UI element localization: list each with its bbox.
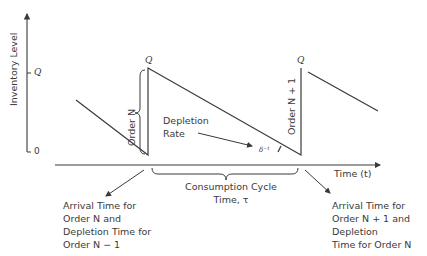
cycle-label-line-2: Time, τ [176, 193, 286, 206]
left-annotation: Arrival Time for Order N and Depletion T… [63, 199, 151, 251]
right-annotation-line-4: Time for Order N [332, 238, 411, 251]
cycle-label: Consumption Cycle Time, τ [176, 180, 286, 206]
order-n1-label: Order N + 1 [286, 78, 297, 135]
cycle-label-line-1: Consumption Cycle [176, 180, 286, 193]
left-annotation-line-2: Order N and [63, 212, 151, 225]
cycle-brace [152, 168, 298, 180]
y-tick-0-label: 0 [34, 145, 40, 157]
right-annotation: Arrival Time for Order N + 1 and Depleti… [332, 199, 411, 251]
right-annotation-arrow [305, 170, 330, 193]
left-annotation-arrow [106, 170, 144, 196]
peak-label-2: Q [297, 54, 304, 66]
inventory-line-tail [308, 72, 378, 111]
x-axis-label: Time (t) [334, 168, 371, 180]
left-annotation-line-1: Arrival Time for [63, 199, 151, 212]
depletion-rate-label: Depletion Rate [163, 114, 209, 140]
y-axis-label: Inventory Level [8, 33, 19, 106]
right-annotation-line-2: Order N + 1 and [332, 212, 411, 225]
right-annotation-line-1: Arrival Time for [332, 199, 411, 212]
slope-symbol: δ⁻¹ [259, 144, 270, 156]
inventory-line [76, 68, 301, 155]
depletion-rate-line-1: Depletion [163, 114, 209, 127]
order-n-label: Order N [126, 109, 137, 146]
depletion-rate-line-2: Rate [163, 127, 209, 140]
y-tick-q-label: Q [34, 66, 41, 78]
right-annotation-line-3: Depletion [332, 225, 411, 238]
peak-label-1: Q [145, 54, 152, 66]
slope-tick [278, 146, 281, 152]
left-annotation-line-4: Order N − 1 [63, 238, 151, 251]
left-annotation-line-3: Depletion Time for [63, 225, 151, 238]
